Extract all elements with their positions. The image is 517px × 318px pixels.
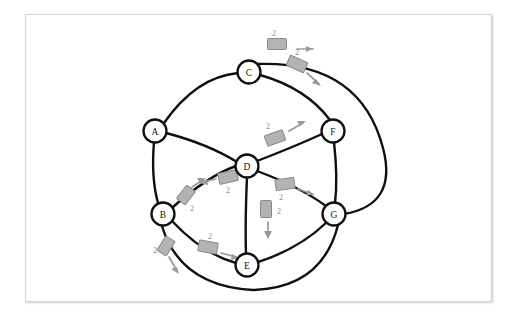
packet-label: 2 bbox=[266, 122, 270, 131]
edge-A-D bbox=[166, 133, 237, 162]
packet-box bbox=[286, 55, 308, 73]
node-B[interactable]: B bbox=[152, 203, 175, 226]
packet-label: 2 bbox=[277, 207, 281, 216]
diagram-canvas: 222222222 ABCDEFG bbox=[0, 0, 517, 318]
edge-D-E bbox=[246, 177, 247, 254]
edge-A-B bbox=[153, 142, 158, 203]
packet-label: 2 bbox=[279, 193, 283, 202]
node-label-A: A bbox=[152, 127, 159, 137]
packet-box bbox=[275, 177, 295, 191]
packet-box bbox=[264, 130, 286, 147]
packet-box bbox=[198, 240, 219, 254]
packet-box bbox=[157, 236, 175, 256]
node-E[interactable]: E bbox=[236, 254, 259, 277]
edge-A-C bbox=[164, 73, 238, 123]
node-label-E: E bbox=[244, 261, 250, 271]
packet-pkt-d-to-e: 2 bbox=[261, 201, 282, 240]
packet-label: 2 bbox=[190, 204, 194, 213]
network-graph: 222222222 ABCDEFG bbox=[0, 0, 517, 318]
packet-box bbox=[268, 39, 287, 50]
packet-arrowhead bbox=[312, 79, 321, 86]
edge-C-F bbox=[260, 75, 330, 120]
node-label-F: F bbox=[330, 127, 335, 137]
packet-label: 2 bbox=[208, 232, 212, 241]
packet-pkt-d-to-b: 2 bbox=[199, 170, 238, 195]
node-label-D: D bbox=[244, 162, 251, 172]
node-F[interactable]: F bbox=[322, 120, 345, 143]
node-label-G: G bbox=[331, 210, 338, 220]
edge-F-G bbox=[334, 142, 336, 203]
packet-label: 2 bbox=[153, 246, 157, 255]
node-C[interactable]: C bbox=[238, 61, 261, 84]
node-label-C: C bbox=[246, 68, 252, 78]
packets-layer: 222222222 bbox=[153, 29, 321, 275]
packet-pkt-d-to-g: 2 bbox=[275, 177, 315, 201]
packet-arrowhead bbox=[306, 46, 313, 52]
node-D[interactable]: D bbox=[236, 155, 259, 178]
node-A[interactable]: A bbox=[144, 120, 167, 143]
packet-arrowhead bbox=[306, 190, 315, 195]
packet-arrowhead bbox=[171, 267, 179, 274]
node-G[interactable]: G bbox=[323, 203, 346, 226]
packet-pkt-c-out-top: 2 bbox=[268, 29, 314, 53]
packet-box bbox=[261, 201, 272, 218]
packet-label: 2 bbox=[295, 48, 299, 57]
packet-label: 2 bbox=[226, 186, 230, 195]
packet-label: 2 bbox=[272, 29, 276, 38]
packet-arrowhead bbox=[264, 231, 272, 239]
edges-layer bbox=[153, 64, 386, 290]
node-label-B: B bbox=[160, 210, 166, 220]
packet-pkt-c-to-f: 2 bbox=[286, 48, 321, 87]
